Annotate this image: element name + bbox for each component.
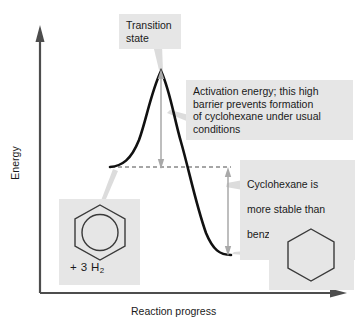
molecule-box-cyclohexane xyxy=(269,220,354,290)
benzene-formula-subscript: 2 xyxy=(100,266,105,275)
callout-activation-energy: Activation energy; this high barrier pre… xyxy=(186,80,353,140)
reaction-energy-arrowhead-top xyxy=(225,167,231,177)
x-axis-label: Reaction progress xyxy=(131,305,251,317)
callout-stability-line-1: Cyclohexane is xyxy=(247,178,348,191)
cyclohexane-structure-icon xyxy=(269,220,354,290)
energy-diagram-figure: Transition state Activation energy; this… xyxy=(0,0,359,328)
molecule-box-benzene: + 3 H2 xyxy=(59,199,140,285)
benzene-formula-label: + 3 H2 xyxy=(70,261,105,273)
y-axis-arrowhead xyxy=(36,25,45,42)
callout-stability-line-2: more stable than xyxy=(247,203,348,216)
callout-transition-state: Transition state xyxy=(119,14,181,49)
benzene-formula-text: + 3 H xyxy=(70,261,100,273)
y-axis-label: Energy xyxy=(9,135,21,191)
